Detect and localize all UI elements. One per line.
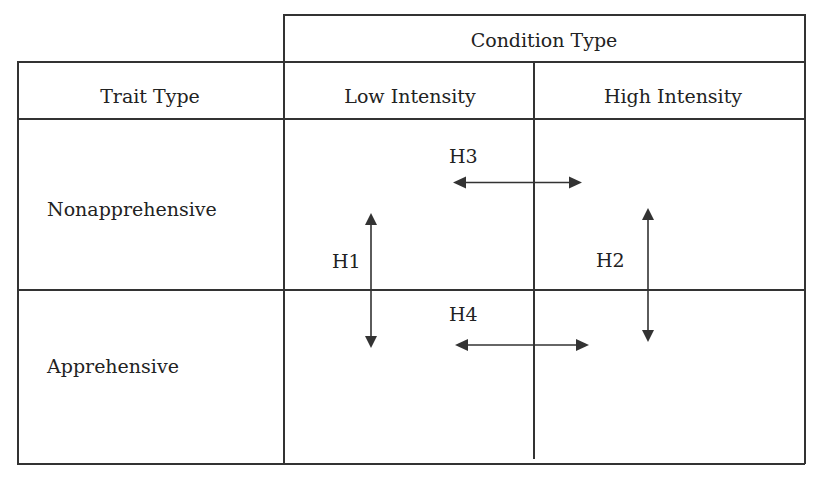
h3-double-arrow-icon [453, 177, 582, 189]
hypothesis-arrows [0, 0, 820, 477]
h4-double-arrow-icon [455, 339, 589, 351]
h1-double-arrow-icon [365, 213, 377, 348]
h2-double-arrow-icon [642, 208, 654, 342]
